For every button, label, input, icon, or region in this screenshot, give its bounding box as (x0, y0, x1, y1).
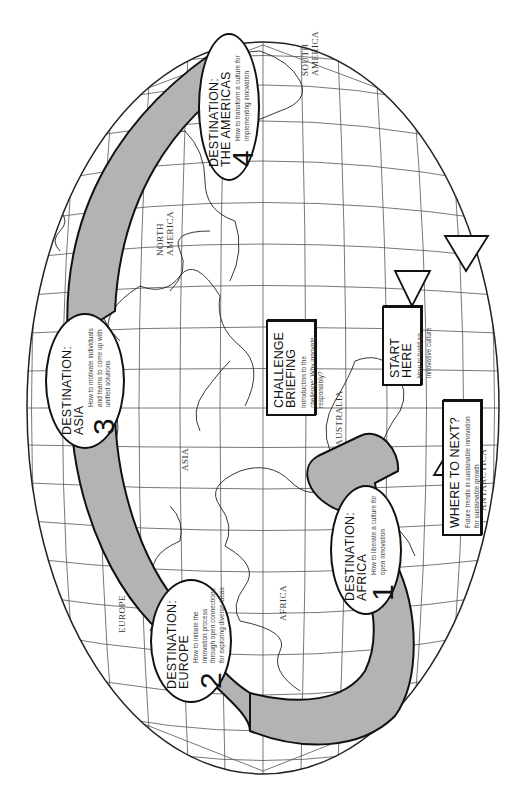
destination-title-line2: AFRICA (356, 554, 368, 601)
destination-description: How to transform a culture for implement… (234, 39, 251, 141)
destination-title-line2: THE AMERICAS (220, 72, 232, 167)
label-africa: AFRICA (278, 585, 288, 621)
start-description: How to build an innovative culture (416, 314, 433, 378)
challenge-briefing-box[interactable]: CHALLENGE BRIEFING Introduction to the c… (266, 320, 316, 416)
start-here-box[interactable]: START HERE How to build an innovative cu… (382, 306, 422, 386)
label-north-america: NORTH AMERICA (155, 208, 175, 256)
end-description: Future trends in sustainable innovation … (464, 408, 481, 528)
destination-africa-bubble[interactable]: 1 DESTINATION: AFRICA How to liberate a … (330, 485, 402, 615)
destination-europe-bubble[interactable]: 2 DESTINATION: EUROPE How to initiate th… (150, 579, 232, 703)
destination-description: How to initiate the innovation process t… (192, 585, 226, 663)
destination-asia-bubble[interactable]: 3 DESTINATION: ASIA How to motivate indi… (45, 313, 125, 449)
end-title: WHERE TO NEXT? (449, 408, 461, 528)
challenge-description: Introduction to the challenge: Why innov… (300, 328, 326, 408)
start-title: START HERE (389, 314, 413, 378)
label-australia: AUSTRALIA (334, 391, 344, 447)
where-to-next-box[interactable]: WHERE TO NEXT? Future trends in sustaina… (442, 400, 482, 536)
label-south-america: SOUTH AMERICA (300, 28, 320, 76)
step-number: 2 (196, 672, 226, 689)
challenge-title-line2: BRIEFING (285, 328, 297, 408)
destination-description: How to motivate individuals and teams to… (87, 317, 113, 407)
destination-title-line2: EUROPE (178, 635, 190, 689)
destination-description: How to liberate a culture for open innov… (370, 489, 387, 575)
end-arrowhead (445, 236, 488, 271)
label-europe: EUROPE (117, 595, 127, 633)
destination-americas-bubble[interactable]: 4 DESTINATION: THE AMERICAS How to trans… (198, 33, 260, 181)
step-number: 3 (89, 418, 119, 435)
journey-map-diagram: EUROPE ASIA AFRICA NORTH AMERICA SOUTH A… (0, 0, 527, 811)
step-number: 1 (368, 584, 398, 601)
label-asia: ASIA (180, 448, 190, 471)
destination-title-line2: ASIA (73, 406, 85, 435)
